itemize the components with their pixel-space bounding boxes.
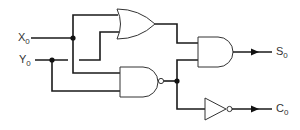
nand-gate [120, 67, 164, 97]
output-s0-wire [233, 49, 272, 56]
junction-x0 [70, 35, 75, 40]
logic-circuit-diagram: X0 Y0 S0 C0 [0, 0, 300, 130]
output-label-c0: C0 [276, 103, 288, 117]
label-subscript: 0 [283, 51, 287, 60]
input-label-y0: Y0 [19, 54, 31, 68]
or-gate [117, 9, 155, 39]
wire-nand-to-not [177, 81, 205, 109]
not-gate [205, 98, 232, 120]
output-label-s0: S0 [276, 46, 288, 60]
label-subscript: 0 [284, 108, 288, 117]
label-subscript: 0 [26, 59, 30, 68]
input-label-x0: X0 [18, 32, 30, 46]
wire-or-out [155, 24, 198, 43]
not-bubble [227, 106, 232, 111]
and-gate [198, 37, 233, 67]
output-c0-wire [232, 106, 272, 113]
wire-y0 [35, 32, 121, 91]
nand-bubble [158, 78, 163, 83]
junction-y0 [49, 57, 54, 62]
arrow-icon [251, 49, 259, 56]
wire-nand-to-and [177, 60, 198, 81]
label-main: C [276, 102, 284, 114]
junction-nand [174, 78, 179, 83]
label-subscript: 0 [25, 37, 29, 46]
wire-x0 [31, 15, 121, 73]
arrow-icon [251, 106, 259, 113]
